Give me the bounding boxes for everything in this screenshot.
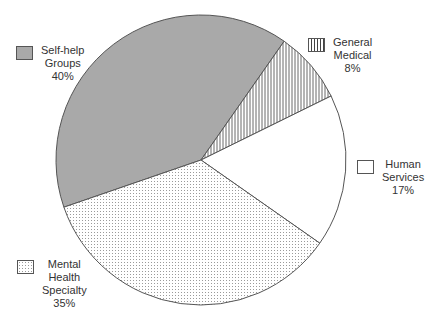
legend-label: Mental [42, 258, 87, 271]
swatch-general-medical [308, 38, 325, 52]
legend-label: Medical [333, 49, 372, 62]
legend-percent: 17% [382, 184, 424, 197]
legend-label: Specialty [42, 284, 87, 297]
legend-human-services: Human Services 17% [357, 158, 424, 197]
swatch-mental-health [17, 260, 34, 274]
legend-percent: 8% [333, 62, 372, 75]
legend-percent: 40% [41, 70, 84, 83]
legend-percent: 35% [42, 297, 87, 310]
swatch-self-help [16, 46, 33, 60]
legend-label: Groups [41, 57, 84, 70]
legend-self-help: Self-help Groups 40% [16, 44, 84, 83]
legend-label: General [333, 36, 372, 49]
legend-label: Health [42, 271, 87, 284]
legend-label: Human [382, 158, 424, 171]
legend-label: Services [382, 171, 424, 184]
legend-mental-health: Mental Health Specialty 35% [17, 258, 87, 310]
legend-label: Self-help [41, 44, 84, 57]
swatch-human-services [357, 160, 374, 174]
legend-general-medical: General Medical 8% [308, 36, 372, 75]
